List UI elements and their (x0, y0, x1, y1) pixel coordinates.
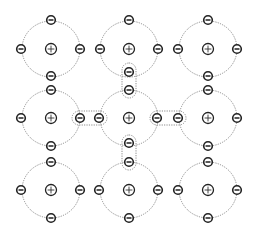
electron-minus-icon (174, 114, 183, 123)
particles (17, 16, 242, 223)
electron-minus-icon (153, 114, 162, 123)
electron-minus-icon (17, 186, 26, 195)
electron-minus-icon (174, 45, 183, 54)
electron-minus-icon (233, 114, 242, 123)
electron-minus-icon (204, 142, 213, 151)
electron-minus-icon (204, 72, 213, 81)
electron-minus-icon (154, 186, 163, 195)
electron-minus-icon (17, 45, 26, 54)
electron-minus-icon (204, 158, 213, 167)
nucleus-plus-icon (124, 185, 135, 196)
electron-minus-icon (47, 72, 56, 81)
nucleus-plus-icon (203, 185, 214, 196)
nucleus-plus-icon (203, 44, 214, 55)
electron-minus-icon (95, 186, 104, 195)
electron-minus-icon (17, 114, 26, 123)
electron-minus-icon (125, 214, 134, 223)
nucleus-plus-icon (46, 44, 57, 55)
electron-minus-icon (233, 45, 242, 54)
electron-minus-icon (174, 186, 183, 195)
electron-minus-icon (125, 86, 134, 95)
nucleus-plus-icon (203, 113, 214, 124)
electron-minus-icon (76, 114, 85, 123)
electron-minus-icon (47, 214, 56, 223)
electron-minus-icon (96, 45, 105, 54)
nucleus-plus-icon (46, 113, 57, 124)
electron-minus-icon (125, 139, 134, 148)
nucleus-plus-icon (46, 185, 57, 196)
electron-minus-icon (76, 45, 85, 54)
electron-minus-icon (204, 86, 213, 95)
nucleus-plus-icon (124, 44, 135, 55)
electron-minus-icon (125, 16, 134, 25)
silicon-lattice-diagram (0, 0, 253, 230)
electron-minus-icon (47, 158, 56, 167)
electron-minus-icon (47, 16, 56, 25)
electron-minus-icon (76, 186, 85, 195)
electron-minus-icon (47, 142, 56, 151)
electron-minus-icon (125, 158, 134, 167)
electron-minus-icon (204, 214, 213, 223)
electron-minus-icon (154, 45, 163, 54)
electron-minus-icon (47, 86, 56, 95)
electron-minus-icon (204, 16, 213, 25)
nucleus-plus-icon (124, 113, 135, 124)
electron-minus-icon (233, 186, 242, 195)
electron-minus-icon (125, 68, 134, 77)
electron-minus-icon (95, 114, 104, 123)
